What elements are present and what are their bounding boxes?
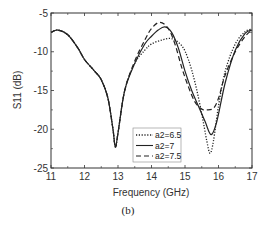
x-tick-label: 12 <box>79 171 91 182</box>
x-tick-label: 14 <box>146 171 158 182</box>
y-tick-label: -20 <box>34 124 49 135</box>
y-tick-label: -25 <box>34 163 49 174</box>
figure-caption: (b) <box>122 204 135 217</box>
y-axis-title: S11 (dB) <box>12 71 23 110</box>
x-axis-title: Frequency (GHz) <box>113 187 190 198</box>
legend-label: a2=6.5 <box>155 130 182 140</box>
x-tick-label: 17 <box>246 171 258 182</box>
y-tick-label: -10 <box>34 46 49 57</box>
s11-chart: 11121314151617 -5-10-15-20-25 Frequency … <box>0 0 269 228</box>
legend: a2=6.5a2=7a2=7.5 <box>133 128 182 162</box>
y-tick-label: -5 <box>39 8 48 19</box>
legend-label: a2=7.5 <box>155 151 182 161</box>
y-tick-label: -15 <box>34 85 49 96</box>
x-tick-label: 13 <box>112 171 124 182</box>
x-tick-label: 16 <box>213 171 225 182</box>
legend-label: a2=7 <box>155 141 174 151</box>
x-tick-label: 15 <box>179 171 191 182</box>
